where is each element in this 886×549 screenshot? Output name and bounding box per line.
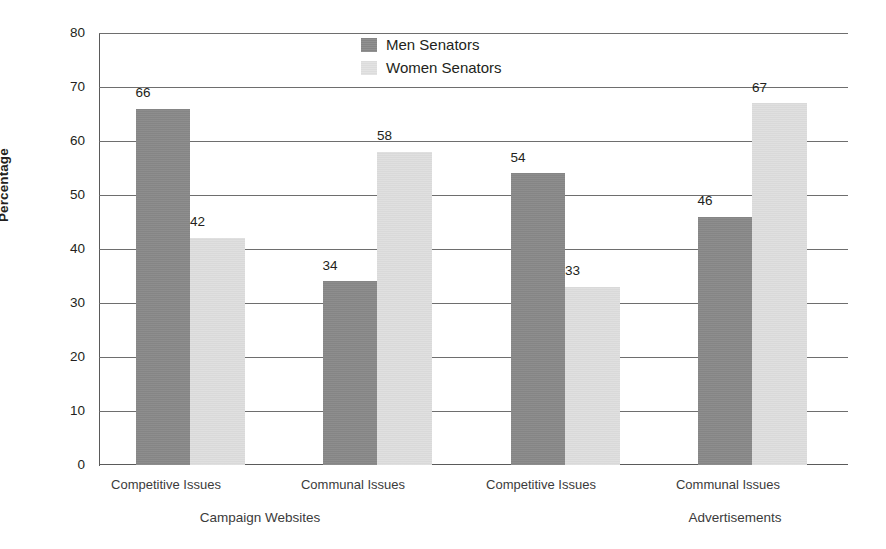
legend-label-women: Women Senators: [386, 60, 502, 75]
bar-men-ads-communal[interactable]: [698, 217, 752, 465]
x-category-label-3: Competitive Issues: [451, 478, 631, 491]
bar-value-label: 33: [545, 264, 600, 278]
gridline-50: [99, 195, 848, 196]
x-group-label-advertisements: Advertisements: [635, 511, 835, 525]
bar-women-campaign-competitive[interactable]: [190, 238, 245, 465]
bar-men-campaign-communal[interactable]: [323, 281, 377, 465]
legend-swatch-icon-men: [361, 38, 377, 52]
bar-women-ads-competitive[interactable]: [565, 287, 620, 465]
x-category-label-4: Communal Issues: [638, 478, 818, 491]
y-tick-label: 0: [41, 458, 85, 472]
bar-value-label: 66: [116, 86, 170, 100]
y-tick-label: 10: [41, 404, 85, 418]
y-tick-label: 60: [41, 134, 85, 148]
bar-chart-figure: Percentage 80 70 60 50 40 30 20 10 0: [0, 0, 886, 549]
legend-item-women-senators[interactable]: Women Senators: [361, 56, 591, 79]
legend-swatch-icon-women: [361, 61, 377, 75]
x-category-label-1: Competitive Issues: [76, 478, 256, 491]
y-tick-label: 40: [41, 242, 85, 256]
bar-value-label: 42: [170, 215, 225, 229]
y-tick-label: 20: [41, 350, 85, 364]
legend-label-men: Men Senators: [386, 37, 479, 52]
legend-item-men-senators[interactable]: Men Senators: [361, 33, 591, 56]
y-tick-label: 70: [41, 80, 85, 94]
plot-area: [99, 33, 848, 465]
x-category-label-2: Communal Issues: [263, 478, 443, 491]
bar-women-ads-communal[interactable]: [752, 103, 807, 465]
bar-value-label: 34: [303, 259, 357, 273]
bar-value-label: 46: [678, 194, 732, 208]
y-tick-label: 80: [41, 26, 85, 40]
bar-men-ads-competitive[interactable]: [511, 173, 565, 465]
bar-value-label: 58: [357, 129, 412, 143]
bar-value-label: 54: [491, 151, 545, 165]
y-tick-label: 30: [41, 296, 85, 310]
gridline-60: [99, 141, 848, 142]
bar-value-label: 67: [732, 81, 787, 95]
bar-men-campaign-competitive[interactable]: [136, 109, 190, 465]
bar-women-campaign-communal[interactable]: [377, 152, 432, 465]
legend: Men Senators Women Senators: [361, 33, 591, 79]
y-tick-label: 50: [41, 188, 85, 202]
x-group-label-campaign-websites: Campaign Websites: [160, 511, 360, 525]
y-axis-title: Percentage: [0, 148, 11, 222]
